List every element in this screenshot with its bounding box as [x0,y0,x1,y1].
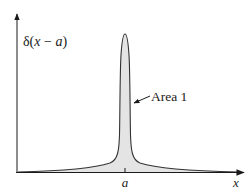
area-annotation: Area 1 [151,89,187,104]
y-axis-label: δ(x − a) [23,34,67,50]
x-axis-label: x [232,175,239,190]
annotation-arrow [134,96,150,103]
delta-function-diagram: δ(x − a) a x Area 1 [0,0,251,196]
x-tick-label: a [122,175,129,190]
